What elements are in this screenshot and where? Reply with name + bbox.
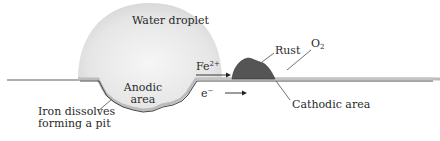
corrosion-diagram: Water droplet Fe2+ Anodic area e− Rust O…: [0, 0, 440, 141]
anodic-area-line2: area: [118, 94, 168, 106]
fe-ion-label: Fe2+: [196, 61, 220, 73]
pit-label-line2: forming a pit: [38, 118, 115, 130]
oxygen-label: O2: [311, 38, 325, 50]
fe-ion-symbol: Fe: [196, 60, 210, 73]
cathodic-area-label: Cathodic area: [292, 99, 370, 111]
electron-charge: −: [208, 87, 214, 95]
electron-label: e−: [201, 88, 213, 100]
rust-deposit: [232, 58, 275, 79]
anodic-area-label: Anodic area: [118, 82, 168, 106]
rust-label: Rust: [275, 45, 300, 57]
water-droplet-label: Water droplet: [132, 15, 209, 27]
fe-ion-arrow-head: [226, 73, 231, 78]
oxygen-symbol: O: [311, 37, 320, 50]
oxygen-subscript: 2: [320, 43, 324, 51]
cathodic-leader: [276, 81, 290, 100]
electron-arrow-head: [242, 91, 247, 96]
pit-label: Iron dissolves forming a pit: [38, 106, 115, 130]
rust-leader: [262, 53, 274, 62]
fe-ion-charge: 2+: [210, 60, 220, 68]
